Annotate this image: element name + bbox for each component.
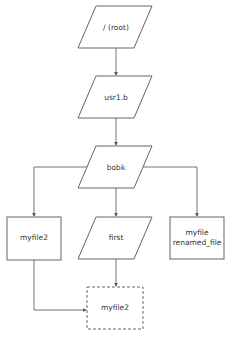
node-myfile2-target[interactable]: myfile2 (87, 287, 143, 329)
node-myfile2-target-label: myfile2 (101, 303, 129, 312)
node-myfile2-left-label: myfile2 (20, 233, 48, 242)
node-myfile-renamed-label-line2: renamed_file (173, 238, 222, 247)
edge-bobk-to-myfile2-left (34, 167, 87, 216)
node-bobk[interactable]: bobk (78, 146, 152, 188)
edge-bobk-to-myfile-renamed (143, 167, 197, 216)
node-first[interactable]: first (78, 217, 152, 259)
node-usr1b-label: usr1.b (104, 93, 128, 102)
node-bobk-label: bobk (107, 163, 126, 172)
node-root[interactable]: / (root) (78, 6, 152, 48)
node-usr1b[interactable]: usr1.b (78, 76, 152, 118)
node-myfile-renamed[interactable]: myfile renamed_file (170, 217, 224, 259)
flowchart-diagram: / (root) usr1.b bobk myfile2 first myfil… (0, 0, 233, 338)
node-first-label: first (109, 233, 124, 242)
node-root-label: / (root) (103, 23, 129, 32)
edge-myfile2-left-to-myfile2-target (34, 260, 86, 310)
node-myfile-renamed-label-line1: myfile (185, 228, 209, 237)
node-myfile2-left[interactable]: myfile2 (7, 217, 61, 260)
